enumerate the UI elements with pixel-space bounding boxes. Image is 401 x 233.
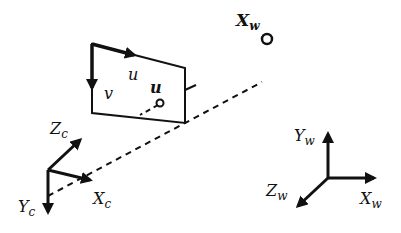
u-axis-label: u xyxy=(128,65,138,84)
camera-frame xyxy=(48,140,90,212)
camera-z-axis xyxy=(48,140,80,170)
camera-y-label: Yc xyxy=(18,197,36,219)
projection-diagram: u v u Xw Zc Xc Yc Yw Xw Zw xyxy=(0,0,401,233)
v-axis-label: v xyxy=(104,84,113,103)
image-point-label: u xyxy=(150,78,162,97)
world-z-axis xyxy=(298,178,328,206)
world-z-label: Zw xyxy=(265,181,288,203)
world-y-label: Yw xyxy=(294,126,316,148)
image-point xyxy=(157,100,164,107)
camera-z-label: Zc xyxy=(49,119,68,141)
world-x-label: Xw xyxy=(358,189,382,211)
world-point xyxy=(262,34,272,44)
world-point-label: Xw xyxy=(235,10,260,33)
camera-x-label: Xc xyxy=(91,189,111,211)
